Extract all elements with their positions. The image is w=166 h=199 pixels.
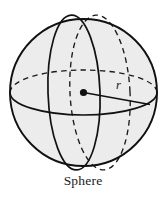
figure-caption: Sphere: [64, 173, 103, 188]
radius-label: r: [116, 79, 121, 92]
sphere-diagram-svg: [0, 0, 166, 199]
sphere-figure: r Sphere: [0, 0, 166, 199]
center-dot: [80, 89, 87, 96]
caption-container: Sphere: [0, 171, 166, 189]
